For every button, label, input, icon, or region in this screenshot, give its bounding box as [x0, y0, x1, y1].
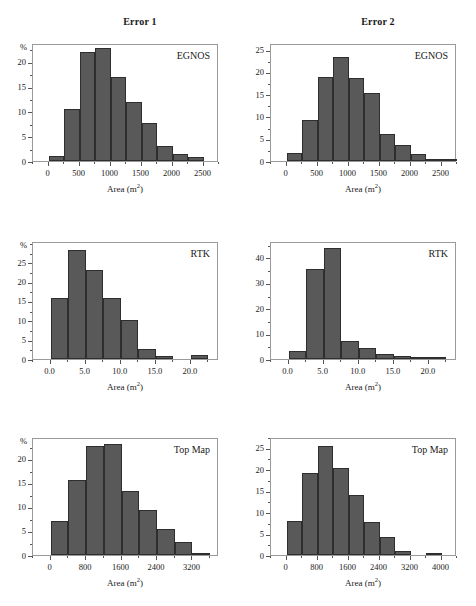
x-axis-tick-major	[358, 360, 359, 364]
y-axis-tick-minor	[268, 271, 271, 272]
x-axis-tick-major	[410, 162, 411, 166]
figure-histogram-grid: Error 1 Error 2 05101520%050010001500200…	[0, 0, 476, 606]
y-axis-label: 15	[0, 296, 26, 306]
x-axis-label: 3200	[171, 562, 211, 572]
y-axis-percent-symbol: %	[20, 240, 27, 250]
x-axis-tick-minor	[94, 162, 95, 164]
x-axis-tick-major	[155, 360, 156, 364]
histogram-bar	[359, 348, 377, 359]
histogram-bar	[349, 495, 365, 556]
x-axis-tick-major	[393, 360, 394, 364]
y-axis-tick-major	[28, 302, 32, 303]
x-axis-title-close: )	[378, 578, 381, 588]
x-axis-tick-minor	[174, 556, 175, 558]
x-axis-tick-minor	[125, 162, 126, 164]
histogram-bar	[411, 357, 429, 359]
y-axis-tick-major	[266, 335, 270, 336]
x-axis-tick-minor	[209, 556, 210, 558]
y-axis-label: 0	[0, 355, 26, 365]
x-axis-tick-major	[141, 162, 142, 166]
x-axis-tick-major	[441, 162, 442, 166]
x-axis-tick-major	[410, 556, 411, 560]
histogram-bar	[376, 354, 394, 359]
histogram-bar	[104, 444, 122, 555]
x-axis-tick-major	[441, 556, 442, 560]
y-axis-tick-minor	[30, 150, 33, 151]
histogram-bar	[103, 298, 121, 359]
x-axis-label: 10.0	[100, 366, 140, 376]
y-axis-tick-minor	[30, 254, 33, 255]
y-axis-tick-minor	[268, 459, 271, 460]
x-axis-label: 2400	[136, 562, 176, 572]
y-axis-tick-minor	[30, 292, 33, 293]
x-axis-tick-minor	[456, 162, 457, 164]
histogram-bar	[287, 521, 303, 555]
panel-label: Top Map	[132, 444, 210, 455]
x-axis-tick-major	[85, 360, 86, 364]
x-axis-tick-minor	[187, 162, 188, 164]
histogram-bar	[333, 468, 349, 555]
y-axis-label: 10	[0, 502, 26, 512]
y-axis-label: 20	[0, 277, 26, 287]
y-axis-tick-minor	[268, 322, 271, 323]
x-axis-tick-minor	[332, 162, 333, 164]
x-axis-tick-minor	[172, 360, 173, 362]
x-axis-title-close: )	[140, 184, 143, 194]
bar-series	[271, 243, 455, 359]
x-axis-tick-minor	[270, 556, 271, 558]
histogram-bar	[411, 154, 427, 161]
x-axis-tick-major	[428, 360, 429, 364]
x-axis-title: Area (m2)	[32, 576, 218, 588]
histogram-bar	[111, 77, 127, 161]
y-axis-label: 20	[236, 67, 264, 77]
x-axis-tick-major	[50, 556, 51, 560]
histogram-bar	[333, 57, 349, 161]
panel-label: RTK	[370, 248, 448, 259]
x-axis-tick-major	[317, 162, 318, 166]
y-axis-label: 5	[0, 132, 26, 142]
x-axis-tick-major	[79, 162, 80, 166]
y-axis-tick-minor	[268, 129, 271, 130]
y-axis-tick-major	[266, 95, 270, 96]
y-axis-label: 0	[236, 551, 264, 561]
histogram-bar	[121, 320, 139, 359]
histogram-bar	[138, 349, 156, 359]
x-axis-tick-minor	[67, 360, 68, 362]
histogram-bar	[324, 248, 342, 359]
y-axis-tick-major	[266, 449, 270, 450]
x-axis-tick-major	[120, 360, 121, 364]
y-axis-tick-major	[266, 284, 270, 285]
x-axis-tick-minor	[270, 162, 271, 164]
y-axis-label: 15	[236, 90, 264, 100]
y-axis-label: 20	[236, 304, 264, 314]
y-axis-tick-minor	[268, 84, 271, 85]
y-axis-label: 20	[0, 57, 26, 67]
x-axis-tick-minor	[305, 360, 306, 362]
x-axis-title-text: Area (m	[107, 578, 137, 588]
x-axis-tick-minor	[32, 556, 33, 558]
plot-area	[270, 438, 456, 556]
x-axis-title-text: Area (m	[345, 382, 375, 392]
x-axis-tick-major	[48, 162, 49, 166]
y-axis-tick-major	[266, 258, 270, 259]
x-axis-tick-major	[379, 556, 380, 560]
y-axis-label: 10	[236, 508, 264, 518]
y-axis-tick-minor	[268, 545, 271, 546]
panel-label: EGNOS	[132, 50, 210, 61]
x-axis-tick-minor	[394, 556, 395, 558]
x-axis-tick-major	[288, 360, 289, 364]
x-axis-tick-major	[323, 360, 324, 364]
histogram-bar	[51, 521, 69, 555]
histogram-bar	[302, 120, 318, 161]
y-axis-label: 40	[236, 253, 264, 263]
x-axis-title: Area (m2)	[32, 182, 218, 194]
y-axis-label: 25	[236, 443, 264, 453]
x-axis-tick-major	[156, 556, 157, 560]
y-axis-tick-major	[266, 73, 270, 74]
histogram-bar	[68, 250, 86, 359]
plot-area	[32, 44, 218, 162]
y-axis-tick-minor	[268, 524, 271, 525]
y-axis-tick-major	[266, 492, 270, 493]
x-axis-tick-major	[121, 556, 122, 560]
y-axis-tick-major	[28, 508, 32, 509]
